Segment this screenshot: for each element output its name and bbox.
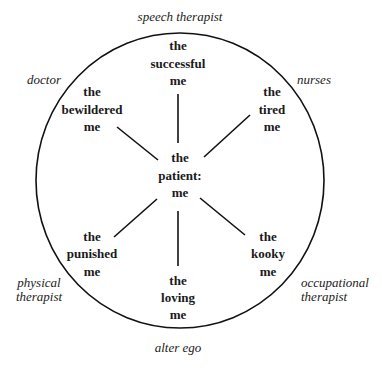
node-line: kooky [251,246,285,261]
node-line: patient: [158,168,201,183]
role-doctor: doctor [27,72,62,87]
edge-punished [114,199,157,237]
role-speech-therapist: speech therapist [138,9,223,24]
role-occupational-therapist: occupational [301,275,369,290]
role-physical-therapist: physical [16,275,61,290]
node-line: punished [67,246,118,261]
node-punished: the punished me [67,229,118,279]
node-loving: the loving me [161,273,195,322]
edge-tired [204,115,250,157]
node-line: the [83,229,101,244]
node-line: the [259,229,277,244]
node-patient: the patient: me [158,150,201,200]
node-line: the [263,84,281,99]
node-line: me [264,119,281,134]
node-line: bewildered [61,102,123,117]
edge-kooky [200,198,245,235]
role-alter-ego: alter ego [155,340,202,355]
node-line: successful [151,56,206,71]
node-tired: the tired me [259,84,286,134]
node-line: me [170,307,187,322]
node-line: me [172,185,189,200]
node-bewildered: the bewildered me [61,84,123,134]
node-line: the [171,150,189,165]
edge-bewildered [117,127,158,160]
role-nurses: nurses [297,72,331,87]
node-kooky: the kooky me [251,229,285,279]
node-line: me [260,264,277,279]
node-line: me [84,119,101,134]
node-line: the [169,38,187,53]
node-line: the [83,84,101,99]
role-occupational-therapist: therapist [301,289,348,304]
node-line: tired [259,102,286,117]
node-line: loving [161,290,195,305]
node-successful: the successful me [151,38,206,88]
node-line: the [169,273,187,288]
node-line: me [84,264,101,279]
radial-diagram: the patient: me the successful me the ti… [0,0,382,368]
node-line: me [170,73,187,88]
role-physical-therapist: therapist [16,289,63,304]
